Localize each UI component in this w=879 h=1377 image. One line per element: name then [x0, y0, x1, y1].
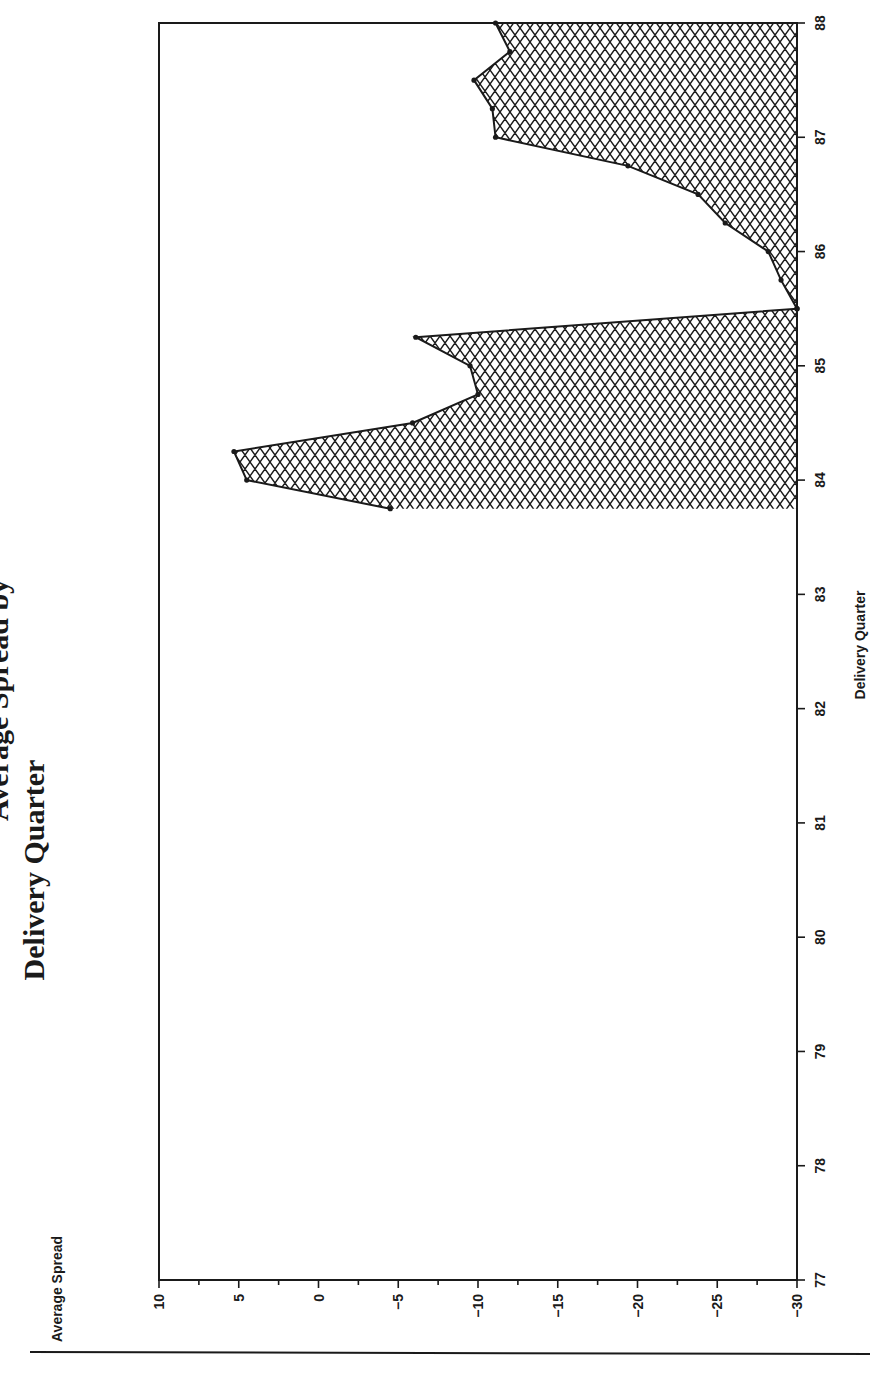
y-tick-label: −10 [470, 1294, 486, 1318]
x-tick-label: 80 [812, 929, 828, 945]
data-point-marker [507, 49, 512, 54]
data-point-marker [467, 363, 472, 368]
chart-title: Average Spread by Delivery Quarter [0, 579, 50, 980]
title-line-2: Delivery Quarter [17, 760, 50, 981]
data-point-marker [625, 163, 630, 168]
x-tick-label: 83 [812, 586, 828, 602]
area-fill-segment-1 [234, 309, 797, 509]
y-tick-label: 5 [231, 1294, 247, 1302]
y-tick-label: −25 [709, 1294, 725, 1318]
y-axis-title: Average Spread [49, 1236, 65, 1342]
data-point-marker [410, 420, 415, 425]
data-point-marker [475, 392, 480, 397]
y-tick-label: −15 [550, 1294, 566, 1318]
x-tick-label: 86 [812, 244, 828, 260]
y-tick-label: −30 [789, 1294, 805, 1318]
area-chart: Average Spread by Delivery Quarter Avera… [0, 0, 879, 1377]
x-tick-label: 78 [812, 1158, 828, 1174]
x-tick-label: 87 [812, 129, 828, 145]
y-tick-label: −20 [630, 1294, 646, 1318]
x-tick-label: 82 [812, 701, 828, 717]
y-axis-ticks: 1050−5−10−15−20−25−30 [151, 1280, 805, 1318]
area-fill-segment-2 [474, 23, 797, 309]
y-tick-label: −5 [390, 1294, 406, 1310]
x-tick-label: 85 [812, 358, 828, 374]
y-tick-label: 10 [151, 1294, 167, 1310]
data-point-marker [231, 449, 236, 454]
bottom-rule [30, 1352, 870, 1354]
area-series [231, 20, 799, 511]
x-tick-label: 79 [812, 1043, 828, 1059]
data-point-marker [493, 135, 498, 140]
data-point-marker [778, 278, 783, 283]
x-axis-title: Delivery Quarter [852, 590, 868, 699]
x-tick-label: 88 [812, 15, 828, 31]
x-tick-label: 84 [812, 472, 828, 488]
x-tick-label: 81 [812, 815, 828, 831]
plot-frame [159, 23, 797, 1280]
data-point-marker [413, 335, 418, 340]
data-point-marker [244, 477, 249, 482]
data-point-marker [388, 506, 393, 511]
data-point-marker [696, 192, 701, 197]
x-tick-label: 77 [812, 1272, 828, 1288]
title-line-1: Average Spread by [0, 579, 14, 821]
data-point-marker [471, 78, 476, 83]
data-point-marker [723, 220, 728, 225]
data-point-marker [490, 106, 495, 111]
data-point-marker [766, 249, 771, 254]
x-axis-ticks: 777879808182838485868788 [797, 15, 828, 1288]
y-tick-label: 0 [311, 1294, 327, 1302]
